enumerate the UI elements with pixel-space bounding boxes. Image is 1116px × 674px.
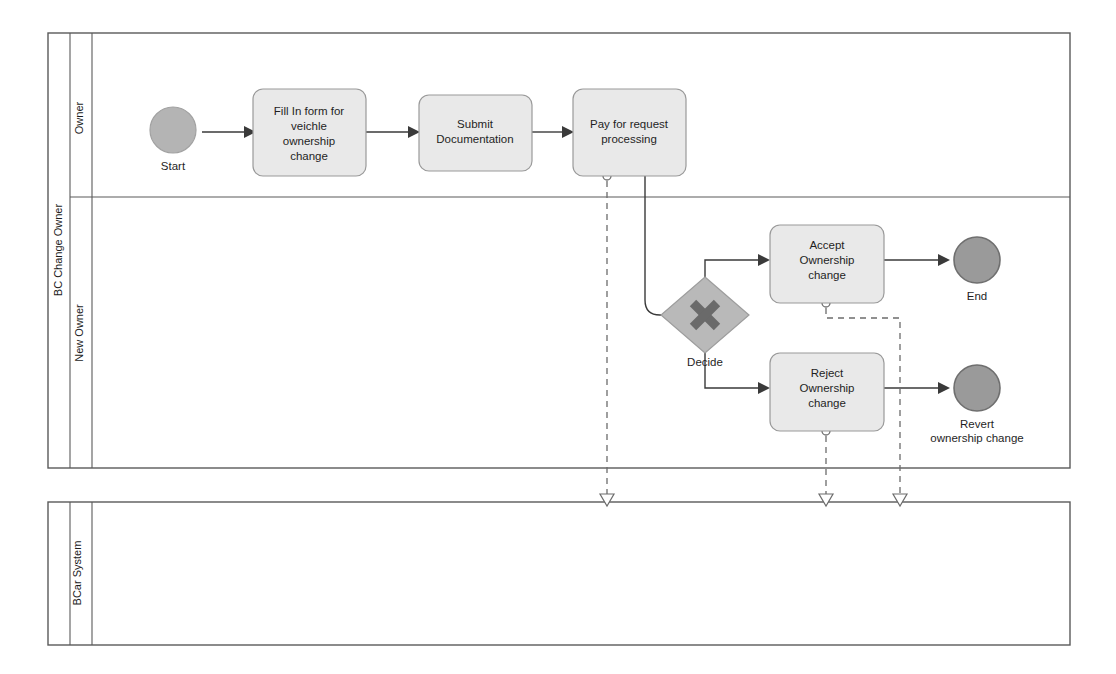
message-flow-arrowhead	[600, 494, 614, 506]
sequence-flow-fill-form-to-submit	[366, 126, 420, 138]
pool-bcar-system-label: BCar System	[71, 541, 83, 606]
sequence-flow-reject-to-revert	[884, 382, 950, 394]
task-reject-line1: Reject	[811, 367, 844, 379]
message-flow-pay-to-system	[600, 172, 614, 506]
task-fill-form-line2: veichle	[291, 120, 327, 132]
revert-event-label-line1: Revert	[960, 418, 995, 430]
pool-bc-change-owner-label: BC Change Owner	[52, 204, 64, 297]
task-pay-line2: processing	[601, 133, 657, 145]
pool-bc-change-owner-border	[48, 33, 1070, 468]
sequence-flow-submit-to-pay	[532, 126, 574, 138]
event-start[interactable]: Start	[150, 107, 196, 172]
task-reject-line2: Ownership	[800, 382, 855, 394]
task-pay-request[interactable]: Pay for request processing	[573, 89, 686, 176]
lane-label-new-owner: New Owner	[73, 304, 85, 362]
task-accept-ownership[interactable]: Accept Ownership change	[770, 225, 884, 303]
task-reject-ownership[interactable]: Reject Ownership change	[770, 353, 884, 431]
sequence-flow-accept-to-end	[884, 254, 950, 266]
sequence-flow-decide-to-reject	[705, 348, 770, 394]
task-accept-line3: change	[808, 269, 846, 281]
message-flow-arrowhead	[893, 494, 907, 506]
pool-bc-change-owner[interactable]: BC Change Owner Owner New Owner	[48, 33, 1070, 468]
pool-bcar-system[interactable]: BCar System	[48, 502, 1070, 645]
event-end[interactable]: End	[954, 237, 1000, 302]
message-flow-arrowhead	[819, 494, 833, 506]
task-submit-line1: Submit	[457, 118, 494, 130]
task-accept-line2: Ownership	[800, 254, 855, 266]
message-flow-reject-to-system	[819, 427, 833, 506]
bpmn-diagram-canvas: BC Change Owner Owner New Owner BCar Sys…	[0, 0, 1116, 674]
lane-label-owner: Owner	[73, 101, 85, 134]
task-fill-form-line1: Fill In form for	[274, 105, 344, 117]
task-fill-form-line3: ownership	[283, 135, 335, 147]
end-event-label: End	[967, 290, 987, 302]
revert-event-label-line2: ownership change	[930, 432, 1023, 444]
revert-event-icon	[954, 365, 1000, 411]
event-revert[interactable]: Revert ownership change	[930, 365, 1023, 444]
task-fill-form[interactable]: Fill In form for veichle ownership chang…	[253, 89, 366, 176]
gateway-decide-label: Decide	[687, 356, 723, 368]
task-submit-documentation[interactable]: Submit Documentation	[419, 95, 532, 171]
start-event-label: Start	[161, 160, 186, 172]
sequence-flow-decide-to-accept	[705, 254, 770, 282]
start-event-icon	[150, 107, 196, 153]
end-event-icon	[954, 237, 1000, 283]
bpmn-svg-surface: BC Change Owner Owner New Owner BCar Sys…	[0, 0, 1116, 674]
message-flow-layer	[600, 172, 907, 506]
task-pay-line1: Pay for request	[590, 118, 669, 130]
sequence-flow-start-to-fill-form	[202, 126, 256, 138]
task-reject-line3: change	[808, 397, 846, 409]
task-submit-line2: Documentation	[436, 133, 513, 145]
task-fill-form-box	[253, 89, 366, 176]
task-accept-line1: Accept	[809, 239, 845, 251]
pool-bcar-system-border	[48, 502, 1070, 645]
task-fill-form-line4: change	[290, 150, 328, 162]
